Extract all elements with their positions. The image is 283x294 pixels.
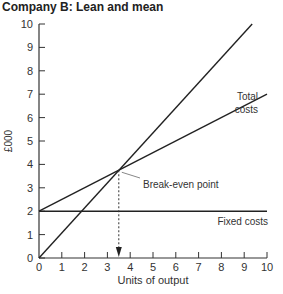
x-tick-label: 2: [82, 261, 88, 273]
total-costs-label-2: costs: [235, 104, 258, 115]
y-tick-label: 2: [27, 205, 33, 217]
y-tick-label: 9: [27, 41, 33, 53]
x-tick-label: 3: [104, 261, 110, 273]
y-axis-label: £000: [3, 129, 14, 152]
x-tick-label: 0: [36, 261, 42, 273]
fixed-costs-label: Fixed costs: [217, 216, 268, 227]
y-tick-label: 5: [27, 135, 33, 147]
y-tick-label: 4: [27, 158, 33, 170]
arrow-down-icon: [116, 247, 122, 257]
break-even-label: Break-even point: [143, 179, 219, 190]
x-tick-label: 6: [173, 261, 179, 273]
y-tick-label: 0: [27, 252, 33, 264]
y-tick-label: 3: [27, 182, 33, 194]
annotations: Break-even pointTotalcostsFixed costs: [116, 91, 268, 257]
total-costs-line: [39, 94, 267, 211]
y-tick-label: 1: [27, 229, 33, 241]
x-tick-label: 10: [261, 261, 273, 273]
x-tick-label: 9: [241, 261, 247, 273]
y-tick-label: 10: [21, 18, 33, 30]
x-tick-label: 1: [59, 261, 65, 273]
break-even-chart: 012345678910 012345678910 Break-even poi…: [0, 0, 283, 294]
x-tick-label: 4: [127, 261, 133, 273]
x-tick-label: 5: [150, 261, 156, 273]
y-tick-label: 7: [27, 88, 33, 100]
y-axis-ticks: 012345678910: [21, 18, 45, 264]
x-axis-label: Units of output: [118, 274, 189, 286]
x-axis-ticks: 012345678910: [36, 252, 273, 273]
y-tick-label: 6: [27, 112, 33, 124]
total-costs-label: Total: [237, 91, 258, 102]
x-tick-label: 7: [196, 261, 202, 273]
y-tick-label: 8: [27, 65, 33, 77]
x-tick-label: 8: [218, 261, 224, 273]
break-even-pointer: [122, 172, 140, 178]
